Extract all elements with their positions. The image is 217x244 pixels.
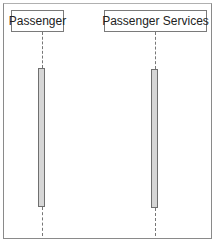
lifeline-passenger-services-top: [155, 32, 156, 69]
participant-passenger: Passenger: [11, 10, 64, 32]
lifeline-passenger-bottom: [42, 207, 43, 236]
lifeline-passenger-services-bottom: [155, 208, 156, 236]
activation-bar-passenger-services: [151, 69, 158, 208]
participant-label: Passenger: [9, 14, 66, 28]
participant-label: Passenger Services: [102, 14, 209, 28]
participant-passenger-services: Passenger Services: [104, 10, 207, 32]
diagram-frame: [3, 3, 212, 239]
lifeline-passenger-top: [42, 32, 43, 68]
activation-bar-passenger: [38, 68, 45, 207]
